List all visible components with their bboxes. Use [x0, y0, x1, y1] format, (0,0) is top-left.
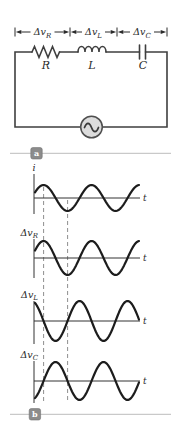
circuit-diagram: ΔvR ΔvL ΔvC R L C: [15, 26, 167, 138]
y-axis-label: ΔvR: [19, 227, 38, 240]
plot-inductor-voltage: ΔvL t: [20, 289, 147, 344]
t-axis-label: t: [143, 193, 147, 203]
section-a-badge-label: a: [34, 148, 39, 158]
plot-resistor-voltage: ΔvR t: [19, 227, 147, 278]
ac-source: [81, 116, 103, 138]
right-arrow-icon: [111, 30, 117, 34]
left-arrow-icon: [16, 30, 21, 34]
section-b-divider: b: [10, 409, 171, 420]
plot-current: i t: [32, 162, 147, 214]
resistor-zigzag-icon: [32, 47, 60, 58]
left-arrow-icon: [71, 30, 77, 34]
inductor-coil-icon: [78, 47, 106, 52]
inductor-label: L: [87, 59, 95, 72]
waveform-plots: i t ΔvR t ΔvL t ΔvC t: [19, 162, 147, 403]
figure-svg: ΔvR ΔvL ΔvC R L C: [0, 0, 181, 427]
section-a-divider: a: [10, 148, 171, 159]
resistor-voltage-span-label: ΔvR: [33, 26, 52, 39]
y-axis-label: i: [32, 162, 35, 173]
inductor: L: [78, 47, 106, 72]
rlc-series-figure: ΔvR ΔvL ΔvC R L C: [0, 0, 181, 427]
capacitor-label: C: [139, 59, 148, 72]
section-b-badge-label: b: [32, 409, 38, 419]
resistor-label: R: [41, 59, 50, 72]
plot-capacitor-voltage: ΔvC t: [19, 349, 147, 403]
y-axis-label: ΔvC: [19, 349, 38, 362]
capacitor: C: [139, 45, 148, 72]
t-axis-label: t: [143, 376, 147, 386]
t-axis-label: t: [143, 316, 147, 326]
resistor: R: [32, 47, 60, 72]
y-axis-label: ΔvL: [20, 289, 38, 302]
inductor-voltage-span-label: ΔvL: [84, 26, 102, 39]
left-arrow-icon: [118, 30, 124, 34]
t-axis-label: t: [143, 253, 147, 263]
right-arrow-icon: [64, 30, 69, 34]
voltage-dimension-arrows: ΔvR ΔvL ΔvC: [15, 26, 167, 39]
circuit-wire-right: [102, 52, 167, 127]
right-arrow-icon: [161, 30, 167, 34]
capacitor-voltage-span-label: ΔvC: [132, 26, 151, 39]
